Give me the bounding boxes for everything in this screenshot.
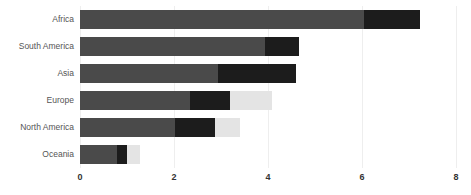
bar-row[interactable]: [80, 91, 456, 110]
bar-segment[interactable]: [80, 10, 364, 29]
bar-row[interactable]: [80, 145, 456, 164]
x-axis-tick-label: 8: [453, 172, 458, 182]
y-axis-labels: AfricaSouth AmericaAsiaEuropeNorth Ameri…: [0, 6, 74, 168]
bar-segment[interactable]: [80, 118, 175, 137]
bar-segment[interactable]: [215, 118, 240, 137]
y-axis-tick-label: North America: [0, 118, 74, 137]
x-axis-tick-label: 0: [77, 172, 82, 182]
y-axis-tick-label: Asia: [0, 64, 74, 83]
x-axis-tick-label: 6: [359, 172, 364, 182]
bar-row[interactable]: [80, 118, 456, 137]
bar-row[interactable]: [80, 10, 456, 29]
bar-row[interactable]: [80, 37, 456, 56]
x-axis-tick-label: 2: [171, 172, 176, 182]
gridline-8: [456, 6, 457, 168]
bar-segment[interactable]: [175, 118, 215, 137]
bar-segment[interactable]: [230, 91, 272, 110]
bar-row[interactable]: [80, 64, 456, 83]
bar-segment[interactable]: [80, 91, 190, 110]
x-axis-tick-label: 4: [265, 172, 270, 182]
bar-segment[interactable]: [364, 10, 419, 29]
y-axis-tick-label: Africa: [0, 10, 74, 29]
x-axis-labels: 02468: [80, 172, 456, 188]
plot-area: [80, 6, 456, 168]
bar-segment[interactable]: [80, 145, 117, 164]
bar-segment[interactable]: [117, 145, 127, 164]
stacked-bar-chart: AfricaSouth AmericaAsiaEuropeNorth Ameri…: [0, 0, 471, 195]
bar-segment[interactable]: [80, 64, 218, 83]
bar-segment[interactable]: [190, 91, 230, 110]
y-axis-tick-label: South America: [0, 37, 74, 56]
bar-segment[interactable]: [127, 145, 140, 164]
y-axis-tick-label: Europe: [0, 91, 74, 110]
bars-container: [80, 6, 456, 168]
bar-segment[interactable]: [80, 37, 265, 56]
y-axis-tick-label: Oceania: [0, 145, 74, 164]
bar-segment[interactable]: [265, 37, 300, 56]
bar-segment[interactable]: [218, 64, 296, 83]
